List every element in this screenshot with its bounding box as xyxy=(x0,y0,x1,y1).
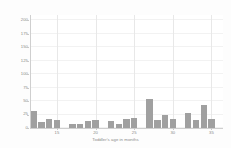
x-tick-label: 20 xyxy=(93,131,98,135)
y-tick-mark xyxy=(27,61,29,62)
bar-series xyxy=(30,15,223,128)
plot-area xyxy=(30,15,223,128)
y-tick-label: 125 xyxy=(2,59,28,63)
y-tick-label: 100 xyxy=(2,72,28,76)
y-tick-mark xyxy=(27,47,29,48)
x-axis-line xyxy=(30,128,223,129)
y-tick-label: 50 xyxy=(2,99,28,103)
bar xyxy=(170,119,176,128)
bar xyxy=(108,121,114,128)
x-tick-label: 30 xyxy=(170,131,175,135)
y-tick-mark xyxy=(27,115,29,116)
y-axis-tick-labels: 0255075100125150175200 xyxy=(0,0,28,148)
y-tick-mark xyxy=(27,128,29,129)
bar xyxy=(31,111,37,128)
bar xyxy=(154,120,160,128)
x-tick-mark xyxy=(96,128,97,130)
bar xyxy=(185,113,191,128)
bar xyxy=(162,115,168,128)
bar xyxy=(46,119,52,128)
bar xyxy=(193,120,199,128)
y-tick-mark xyxy=(27,101,29,102)
bar xyxy=(92,120,98,128)
bar xyxy=(54,120,60,128)
y-tick-label: 175 xyxy=(2,32,28,36)
x-tick-label: 35 xyxy=(209,131,214,135)
y-tick-label: 0 xyxy=(2,126,28,130)
y-tick-label: 150 xyxy=(2,45,28,49)
bar xyxy=(131,118,137,128)
x-tick-mark xyxy=(173,128,174,130)
y-tick-label: 25 xyxy=(2,112,28,116)
x-axis-title: Toddler's age in months xyxy=(0,137,231,142)
x-tick-label: 25 xyxy=(132,131,137,135)
x-tick-mark xyxy=(211,128,212,130)
y-tick-mark xyxy=(27,88,29,89)
y-tick-label: 75 xyxy=(2,86,28,90)
bar xyxy=(85,121,91,128)
y-tick-mark xyxy=(27,20,29,21)
histogram-chart: 0255075100125150175200 1520253035 Toddle… xyxy=(0,0,231,148)
bar xyxy=(146,99,152,128)
bar xyxy=(123,119,129,128)
y-tick-mark xyxy=(27,74,29,75)
x-tick-mark xyxy=(134,128,135,130)
y-tick-label: 200 xyxy=(2,18,28,22)
x-tick-label: 15 xyxy=(55,131,60,135)
bar xyxy=(201,105,207,128)
y-axis-line xyxy=(30,15,31,128)
y-tick-mark xyxy=(27,34,29,35)
bar xyxy=(208,119,214,128)
x-tick-mark xyxy=(57,128,58,130)
